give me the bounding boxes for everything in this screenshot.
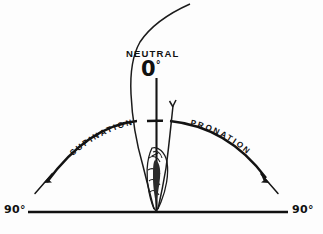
hand-shading (153, 160, 160, 205)
forearm-fork-branch-inner (170, 101, 174, 107)
neutral-angle-value: 0 (141, 57, 156, 81)
forearm-rotation-figure: SUPINATION PRONATION NEUTRAL 0° 90° 90° (0, 0, 323, 234)
degree-symbol-icon: ° (156, 59, 161, 70)
neutral-angle-label: 0° (141, 57, 161, 81)
forearm-fork-branch-outer (173, 100, 176, 106)
pronation-arrow-shaft (261, 174, 278, 194)
pronation-arc-label: PRONATION (189, 118, 253, 157)
rotation-arc-left-segment (47, 121, 137, 182)
diagram-canvas: SUPINATION PRONATION (0, 0, 323, 234)
supination-arrow-shaft (35, 174, 52, 194)
supination-arc-label: SUPINATION (68, 118, 135, 158)
left-angle-label: 90° (4, 203, 26, 216)
right-angle-label: 90° (292, 203, 314, 216)
forearm-left-contour (131, 4, 190, 209)
